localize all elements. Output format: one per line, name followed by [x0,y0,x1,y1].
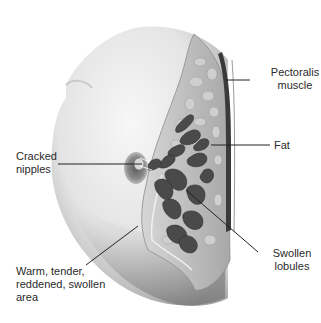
label-pectoralis-muscle: Pectoralis muscle [270,66,320,92]
label-warm-tender-area: Warm, tender, reddened, swollen area [16,265,126,304]
label-cracked-nipples: Cracked nipples [16,150,57,176]
label-swollen-lobules: Swollen lobules [266,247,318,273]
label-fat: Fat [274,139,290,152]
